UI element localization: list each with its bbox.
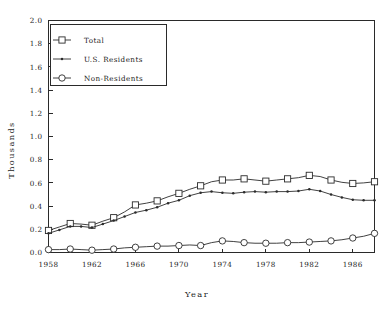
data-point-marker [176, 190, 182, 196]
data-point-marker [328, 177, 334, 183]
legend-item-label: Non-Residents [84, 74, 143, 83]
data-point-marker [308, 188, 311, 191]
x-tick-label: 1982 [299, 260, 319, 269]
data-point-marker [132, 244, 138, 250]
x-tick-label: 1958 [39, 260, 59, 269]
data-point-marker [371, 230, 377, 236]
legend-item-label: Total [84, 36, 105, 45]
y-tick-label: 1.8 [30, 39, 43, 48]
y-tick-label: 1.2 [30, 109, 43, 118]
y-tick-label: 0.8 [30, 155, 43, 164]
data-point-marker [265, 191, 268, 194]
data-point-marker [80, 225, 83, 228]
data-point-marker [350, 235, 356, 241]
x-tick-label: 1986 [343, 260, 363, 269]
data-point-marker [61, 58, 64, 61]
data-point-marker [232, 192, 235, 195]
data-point-marker [69, 225, 72, 228]
x-tick-label: 1962 [82, 260, 102, 269]
line-chart-canvas: 0.00.20.40.60.81.01.21.41.61.82.0 195819… [0, 0, 390, 309]
data-point-marker [219, 177, 225, 183]
data-point-marker [167, 202, 170, 205]
y-tick-label: 0.2 [30, 225, 43, 234]
data-point-marker [297, 190, 300, 193]
data-point-marker [59, 37, 65, 43]
data-point-marker [112, 219, 115, 222]
x-tick-label: 1966 [125, 260, 145, 269]
data-point-marker [284, 239, 290, 245]
data-point-marker [306, 239, 312, 245]
data-point-marker [328, 238, 334, 244]
data-point-marker [132, 202, 138, 208]
data-point-marker [319, 190, 322, 193]
data-point-marker [284, 176, 290, 182]
y-tick-label: 1.0 [30, 132, 43, 141]
data-point-marker [102, 223, 105, 226]
y-tick-label: 0.0 [30, 248, 43, 257]
x-tick-label: 1970 [169, 260, 189, 269]
data-point-marker [45, 246, 51, 252]
y-axis-title: Thousands [6, 121, 16, 178]
data-point-marker [58, 229, 61, 232]
series-polyline [49, 175, 375, 230]
data-point-marker [263, 240, 269, 246]
data-point-marker [306, 172, 312, 178]
y-tick-label: 1.6 [30, 63, 43, 72]
data-point-marker [254, 190, 257, 193]
data-point-marker [178, 199, 181, 202]
data-point-marker [197, 242, 203, 248]
y-tick-label: 2.0 [30, 16, 43, 25]
data-point-marker [91, 226, 94, 229]
data-point-marker [362, 199, 365, 202]
data-point-marker [341, 196, 344, 199]
data-point-marker [199, 192, 202, 195]
data-point-marker [154, 198, 160, 204]
data-point-marker [111, 246, 117, 252]
data-point-marker [263, 178, 269, 184]
y-tick-label: 0.6 [30, 179, 43, 188]
data-point-marker [198, 183, 204, 189]
data-series-group [45, 172, 377, 253]
data-point-marker [330, 193, 333, 196]
data-point-marker [350, 180, 356, 186]
x-tick-label: 1974 [212, 260, 232, 269]
data-point-marker [286, 190, 289, 193]
chart-legend[interactable]: TotalU.S. ResidentsNon-Residents [51, 25, 167, 86]
data-point-marker [241, 239, 247, 245]
data-point-marker [134, 211, 137, 214]
series-non-residents [45, 230, 377, 253]
data-point-marker [123, 215, 126, 218]
series-u-s-residents [47, 188, 376, 235]
data-point-marker [189, 194, 192, 197]
data-point-marker [210, 190, 213, 193]
series-polyline [49, 233, 375, 250]
y-axis-tick-labels: 0.00.20.40.60.81.01.21.41.61.82.0 [30, 16, 43, 257]
series-polyline [49, 189, 375, 233]
legend-item-label: U.S. Residents [84, 55, 143, 64]
x-axis-title: Year [184, 289, 209, 299]
data-point-marker [241, 176, 247, 182]
data-point-marker [275, 190, 278, 193]
data-point-marker [243, 191, 246, 194]
x-tick-label: 1978 [256, 260, 276, 269]
data-point-marker [371, 179, 377, 185]
data-point-marker [373, 199, 376, 202]
data-point-marker [221, 192, 224, 195]
series-total [45, 172, 377, 233]
x-axis-tick-labels: 19581962196619701974197819821986 [39, 260, 363, 269]
data-point-marker [145, 209, 148, 212]
y-tick-label: 1.4 [30, 86, 43, 95]
data-point-marker [47, 232, 50, 235]
y-tick-label: 0.4 [30, 202, 43, 211]
chart-figure: 0.00.20.40.60.81.01.21.41.61.82.0 195819… [0, 0, 390, 309]
data-point-marker [89, 247, 95, 253]
data-point-marker [352, 198, 355, 201]
data-point-marker [59, 75, 65, 81]
data-point-marker [67, 246, 73, 252]
data-point-marker [154, 243, 160, 249]
data-point-marker [176, 242, 182, 248]
data-point-marker [219, 238, 225, 244]
data-point-marker [156, 206, 159, 209]
